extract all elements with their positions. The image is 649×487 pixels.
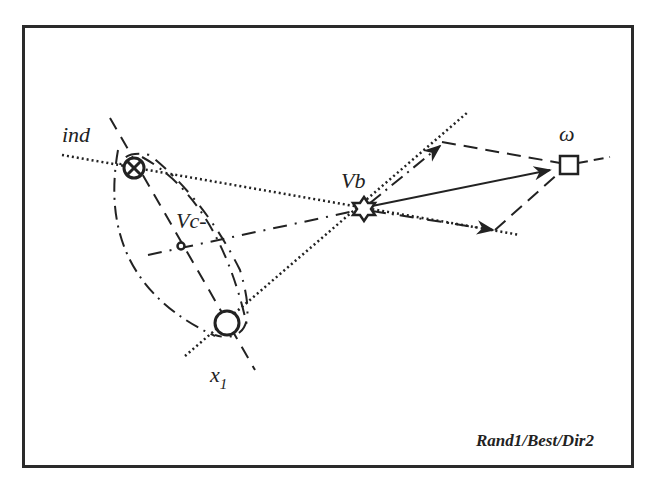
ind-node-icon <box>124 158 144 178</box>
diagram-canvas: ind Vc- x1 Vb ω Rand1/Best/Dir2 <box>0 0 649 487</box>
arrow-vb-omega <box>372 170 550 206</box>
label-ind: ind <box>62 122 91 147</box>
dashed-omega-extend <box>578 157 610 163</box>
x1-node-icon <box>215 311 239 335</box>
label-vc: Vc- <box>176 208 207 233</box>
label-omega: ω <box>559 121 575 146</box>
right-arc-dashdot <box>142 157 248 330</box>
diagram-caption: Rand1/Best/Dir2 <box>475 431 595 450</box>
omega-node-icon <box>560 156 578 174</box>
label-x1-sub: 1 <box>220 376 228 392</box>
vc-node-icon <box>178 243 185 250</box>
label-x1-main: x <box>209 362 220 387</box>
dashed-upper-omega <box>442 142 560 163</box>
dashed-lower-omega <box>495 172 560 230</box>
label-x1: x1 <box>209 362 227 392</box>
arrow-vb-lower <box>372 211 493 230</box>
label-vb: Vb <box>341 168 365 193</box>
